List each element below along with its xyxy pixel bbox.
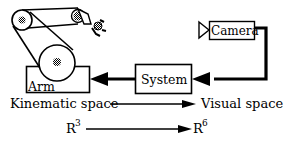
diagram-canvas: Arm System Camera Kinematic space Visual… bbox=[0, 0, 283, 150]
r3-label: R 3 bbox=[66, 118, 81, 136]
system-to-arm-arrow bbox=[90, 72, 135, 86]
visual-space-label: Visual space bbox=[200, 96, 283, 111]
arm-label: Arm bbox=[27, 79, 55, 94]
kinematic-to-visual-arrow bbox=[110, 100, 196, 108]
system-label: System bbox=[141, 72, 187, 87]
r6-label: R 6 bbox=[193, 118, 208, 136]
kinematic-space-label: Kinematic space bbox=[10, 96, 119, 111]
svg-text:3: 3 bbox=[75, 118, 81, 128]
svg-text:6: 6 bbox=[202, 118, 208, 128]
r3-to-r6-arrow bbox=[86, 125, 192, 133]
camera-label: Camera bbox=[211, 24, 259, 38]
camera-lens-icon bbox=[199, 22, 209, 38]
